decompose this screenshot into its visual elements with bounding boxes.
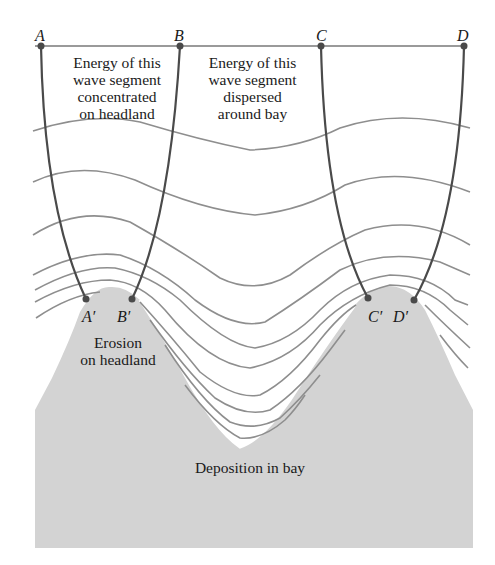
label-C-prime: C′ — [368, 308, 382, 326]
label-D-prime: D′ — [393, 308, 408, 326]
label-A: A — [35, 27, 45, 45]
point-A-prime — [83, 296, 90, 303]
label-B: B — [174, 27, 184, 45]
point-C-prime — [365, 295, 372, 302]
headland-energy-label: Energy of this wave segment concentrated… — [62, 54, 172, 122]
deposition-label: Deposition in bay — [180, 459, 320, 476]
wave-crest-2 — [33, 170, 470, 215]
bay-energy-label: Energy of this wave segment dispersed ar… — [200, 54, 305, 122]
point-D-prime — [411, 297, 418, 304]
label-B-prime: B′ — [117, 308, 130, 326]
ray-C — [321, 46, 368, 298]
label-A-prime: A′ — [82, 308, 95, 326]
wave-refraction-diagram: A B C D A′ B′ C′ D′ Energy of this wave … — [0, 0, 495, 565]
point-B-prime — [129, 296, 136, 303]
label-D: D — [457, 27, 469, 45]
label-C: C — [316, 27, 327, 45]
erosion-label: Erosion on headland — [62, 334, 174, 368]
wave-crest-1 — [33, 118, 470, 150]
